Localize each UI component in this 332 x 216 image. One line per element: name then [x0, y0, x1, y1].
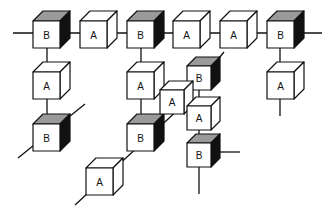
cube-label: A	[169, 97, 176, 108]
cube-label: A	[230, 30, 237, 41]
cube-label: B	[137, 133, 144, 144]
cube-label: B	[277, 30, 284, 41]
cube-b: B	[33, 114, 70, 151]
cube-label: A	[196, 113, 203, 124]
cube-a: A	[86, 158, 123, 195]
cube-a: A	[187, 97, 220, 130]
cubes: BABAABABABABAABA	[33, 11, 304, 195]
cube-label: B	[137, 30, 144, 41]
cube-label: A	[96, 177, 103, 188]
cube-label: B	[196, 150, 203, 161]
cube-label: A	[183, 30, 190, 41]
cube-label: A	[90, 30, 97, 41]
cube-a: A	[127, 62, 164, 99]
cube-b: B	[267, 11, 304, 48]
cube-label: B	[43, 30, 50, 41]
cube-b: B	[127, 11, 164, 48]
cube-lattice-diagram: BABAABABABABAABA	[0, 0, 332, 216]
cube-label: A	[277, 81, 284, 92]
cube-a: A	[267, 62, 304, 99]
cube-label: A	[137, 81, 144, 92]
cube-label: A	[43, 81, 50, 92]
cube-label: B	[43, 133, 50, 144]
cube-b: B	[127, 114, 164, 151]
cube-a: A	[33, 62, 70, 99]
cube-b: B	[187, 134, 220, 167]
cube-a: A	[220, 11, 257, 48]
cube-a: A	[80, 11, 117, 48]
cube-b: B	[33, 11, 70, 48]
cube-a: A	[173, 11, 210, 48]
cube-label: B	[196, 73, 203, 84]
